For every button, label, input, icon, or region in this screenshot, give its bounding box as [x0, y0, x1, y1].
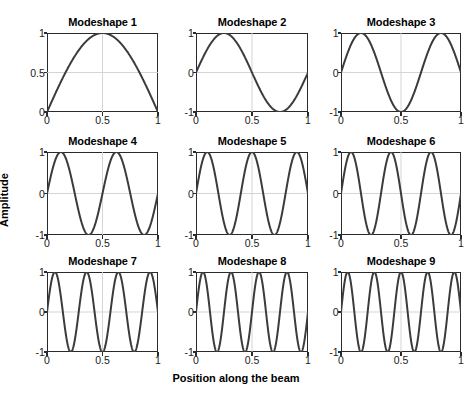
y-tick-mark	[44, 151, 48, 152]
x-tick-mark	[400, 112, 401, 116]
plot-area	[341, 272, 461, 352]
subplot-modeshape-5: Modeshape 5-10100.51	[196, 152, 308, 235]
subplot-modeshape-9: Modeshape 9-10100.51	[341, 272, 461, 352]
x-tick-mark	[340, 112, 341, 116]
subplot-title: Modeshape 2	[196, 16, 308, 28]
x-tick-mark	[157, 235, 158, 239]
x-tick-mark	[102, 352, 103, 356]
x-tick-mark	[307, 352, 308, 356]
x-tick-mark	[195, 112, 196, 116]
y-tick-mark	[193, 193, 197, 194]
x-tick-mark	[460, 112, 461, 116]
y-tick-mark	[338, 32, 342, 33]
y-tick-mark	[193, 32, 197, 33]
x-axis-label: Position along the beam	[0, 372, 472, 384]
plot-area	[47, 33, 158, 112]
y-tick-mark	[44, 72, 48, 73]
y-tick-mark	[338, 311, 342, 312]
x-tick-mark	[195, 235, 196, 239]
y-tick-mark	[44, 32, 48, 33]
subplot-modeshape-2: Modeshape 2-10100.51	[196, 33, 308, 112]
subplot-title: Modeshape 1	[47, 16, 158, 28]
subplot-title: Modeshape 3	[341, 16, 461, 28]
y-axis-label: Amplitude	[0, 173, 10, 227]
plot-area	[196, 33, 308, 112]
y-tick-mark	[44, 271, 48, 272]
figure-canvas: Amplitude Position along the beam Modesh…	[0, 0, 472, 403]
plot-area	[47, 272, 158, 352]
y-tick-mark	[193, 72, 197, 73]
y-tick-mark	[193, 311, 197, 312]
y-tick-mark	[193, 271, 197, 272]
x-tick-mark	[102, 235, 103, 239]
x-tick-mark	[195, 352, 196, 356]
subplot-title: Modeshape 6	[341, 135, 461, 147]
subplot-modeshape-4: Modeshape 4-10100.51	[47, 152, 158, 235]
subplot-title: Modeshape 9	[341, 255, 461, 267]
x-tick-mark	[460, 235, 461, 239]
x-tick-mark	[251, 112, 252, 116]
x-tick-mark	[460, 352, 461, 356]
subplot-title: Modeshape 5	[196, 135, 308, 147]
x-tick-mark	[400, 235, 401, 239]
subplot-modeshape-3: Modeshape 3-10100.51	[341, 33, 461, 112]
plot-area	[47, 152, 158, 235]
y-tick-mark	[193, 151, 197, 152]
x-tick-mark	[400, 352, 401, 356]
x-tick-mark	[46, 352, 47, 356]
subplot-modeshape-8: Modeshape 8-10100.51	[196, 272, 308, 352]
y-tick-mark	[44, 193, 48, 194]
x-tick-mark	[340, 235, 341, 239]
x-tick-mark	[102, 112, 103, 116]
x-tick-mark	[157, 112, 158, 116]
x-tick-mark	[307, 235, 308, 239]
y-tick-mark	[338, 193, 342, 194]
x-tick-mark	[251, 352, 252, 356]
plot-area	[341, 152, 461, 235]
subplot-modeshape-7: Modeshape 7-10100.51	[47, 272, 158, 352]
subplot-title: Modeshape 7	[47, 255, 158, 267]
subplot-title: Modeshape 8	[196, 255, 308, 267]
plot-area	[196, 152, 308, 235]
y-tick-mark	[338, 271, 342, 272]
x-tick-mark	[46, 112, 47, 116]
subplot-modeshape-1: Modeshape 100.5100.51	[47, 33, 158, 112]
subplot-title: Modeshape 4	[47, 135, 158, 147]
x-tick-mark	[307, 112, 308, 116]
y-tick-mark	[44, 311, 48, 312]
y-tick-mark	[338, 72, 342, 73]
y-tick-mark	[338, 151, 342, 152]
x-tick-mark	[340, 352, 341, 356]
plot-area	[341, 33, 461, 112]
subplot-modeshape-6: Modeshape 6-10100.51	[341, 152, 461, 235]
plot-area	[196, 272, 308, 352]
x-tick-mark	[46, 235, 47, 239]
x-tick-mark	[251, 235, 252, 239]
x-tick-mark	[157, 352, 158, 356]
